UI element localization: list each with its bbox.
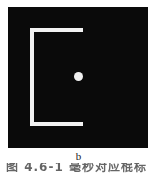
center-dot — [74, 72, 83, 81]
u-bracket-left-segment — [30, 28, 34, 126]
figure-page: b 图 4.6-1 毫秒对应棍标 — [0, 0, 157, 173]
figure-caption-text: 图 4.6-1 毫秒对应棍标 — [6, 163, 147, 173]
figure-panel — [8, 7, 148, 148]
u-bracket-bottom-segment — [30, 122, 83, 126]
figure-caption-clipped: 图 4.6-1 毫秒对应棍标 — [0, 163, 157, 173]
u-bracket-top-segment — [30, 28, 83, 32]
subfigure-label: b — [0, 150, 157, 162]
